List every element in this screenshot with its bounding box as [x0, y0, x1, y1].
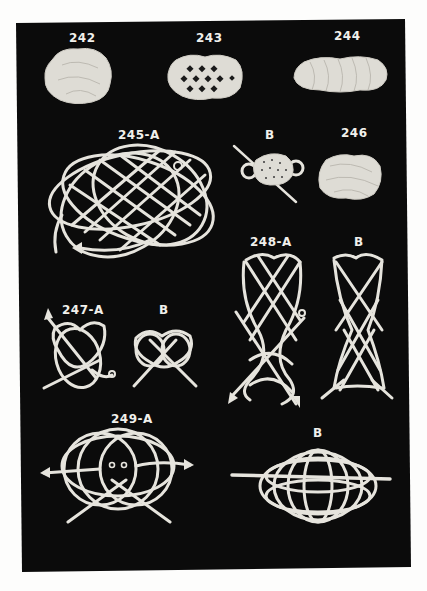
knot-246-mat-icon	[319, 155, 381, 200]
knot-245-a-diagram-icon	[42, 125, 225, 277]
knot-249-a-diagram-icon	[40, 429, 194, 522]
knot-244-mat-icon	[294, 57, 387, 92]
knot-247-b-diagram-icon	[134, 331, 196, 386]
knot-245-b-mat-with-rod-icon	[234, 146, 303, 202]
knot-242-mat-icon	[45, 48, 111, 103]
knot-248-b-diagram-icon	[322, 254, 392, 398]
knot-247-a-diagram-icon	[44, 308, 115, 393]
knot-243-mat-icon	[168, 55, 242, 100]
knot-248-a-diagram-icon	[228, 254, 305, 408]
knot-249-b-globe-on-rod-icon	[232, 450, 390, 522]
